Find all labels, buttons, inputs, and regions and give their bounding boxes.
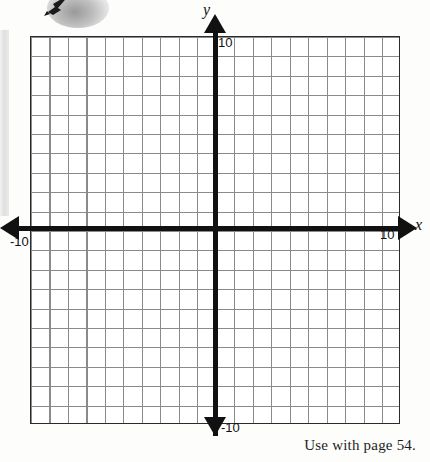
pen-mark-artifact-icon [44,0,74,20]
worksheet-page: y x 10 -10 -10 10 Use with page 54. [0,0,430,462]
y-axis-max-tick-label: 10 [218,36,232,49]
y-axis-label: y [203,2,210,18]
scan-edge-artifact [0,30,9,216]
footer-note: Use with page 54. [0,437,416,454]
y-axis-line [213,26,218,436]
y-axis-min-tick-label: -10 [221,421,240,434]
x-axis-max-tick-label: 10 [380,228,394,241]
x-axis-min-tick-label: -10 [10,235,29,248]
x-axis-label: x [415,217,422,233]
